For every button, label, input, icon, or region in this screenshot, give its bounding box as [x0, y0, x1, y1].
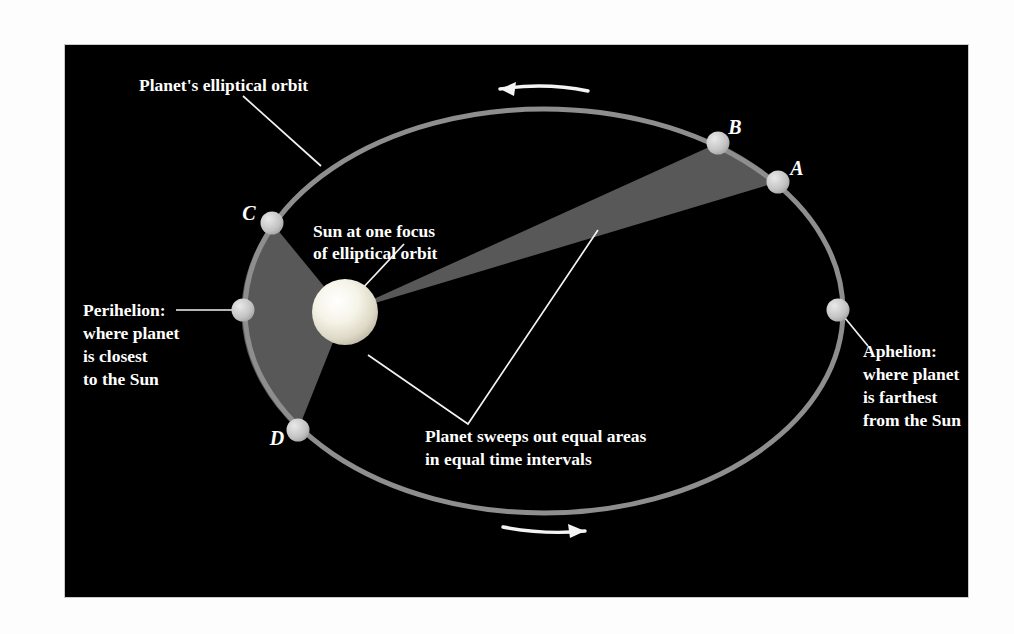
- aphelion-caption-line2: where planet: [863, 364, 960, 384]
- sun-caption-line2: of elliptical orbit: [313, 243, 438, 263]
- aphelion-caption-line1: Aphelion:: [863, 341, 937, 361]
- sun-body: [312, 279, 378, 345]
- sun-caption-line1: Sun at one focus: [313, 221, 435, 241]
- point-label-d: D: [269, 427, 284, 449]
- point-label-a: A: [788, 157, 803, 179]
- sweep-caption-line1: Planet sweeps out equal areas: [425, 426, 647, 446]
- perihelion-caption-line2: where planet: [83, 323, 180, 343]
- direction-arrow-top: [500, 82, 588, 96]
- figure-page: B A C D Planet's elliptical orbit Sun at…: [0, 0, 1014, 634]
- planet-marker-perihelion: [232, 299, 255, 322]
- perihelion-caption-line3: is closest: [83, 346, 148, 366]
- orbit-diagram-svg: B A C D Planet's elliptical orbit Sun at…: [65, 45, 968, 597]
- perihelion-caption-line4: to the Sun: [83, 369, 159, 389]
- orbit-caption: Planet's elliptical orbit: [139, 75, 308, 95]
- planet-marker-a: [767, 171, 790, 194]
- planet-marker-d: [287, 419, 310, 442]
- aphelion-caption-line3: is farthest: [863, 387, 938, 407]
- perihelion-caption-line1: Perihelion:: [83, 300, 166, 320]
- sweep-caption-line2: in equal time intervals: [425, 449, 592, 469]
- planet-marker-c: [261, 212, 284, 235]
- diagram-panel: B A C D Planet's elliptical orbit Sun at…: [65, 45, 968, 597]
- point-label-c: C: [242, 202, 256, 224]
- planet-marker-aphelion: [827, 299, 850, 322]
- aphelion-caption-line4: from the Sun: [863, 410, 961, 430]
- point-label-b: B: [727, 116, 741, 138]
- planet-marker-b: [707, 132, 730, 155]
- direction-arrow-bottom: [503, 524, 585, 538]
- leader-orbit: [243, 96, 321, 166]
